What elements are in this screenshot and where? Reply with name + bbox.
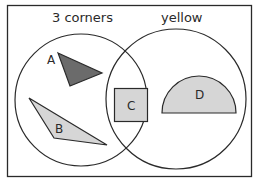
set-label-3-corners: 3 corners	[52, 10, 113, 25]
shape-d-label: D	[195, 88, 204, 102]
set-label-yellow: yellow	[161, 10, 203, 25]
shape-b-label: B	[55, 122, 63, 136]
venn-diagram: 3 corners yellow A B C D	[0, 0, 258, 185]
shape-a-label: A	[47, 53, 56, 67]
shape-c-label: C	[127, 99, 135, 113]
